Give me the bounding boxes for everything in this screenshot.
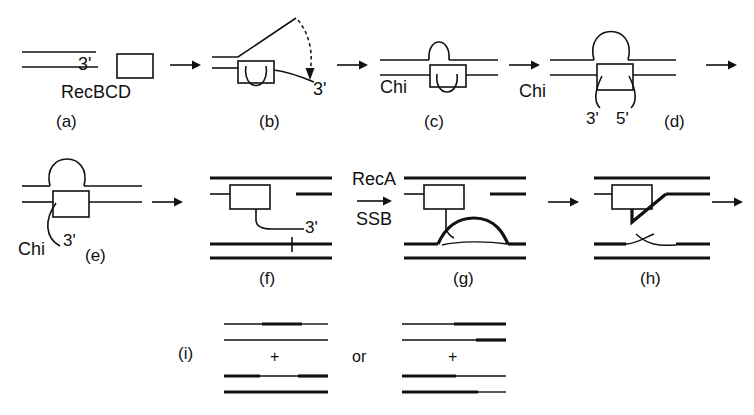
label-chi-e: Chi xyxy=(18,240,45,258)
label-plus-right: + xyxy=(448,349,457,365)
panel-g-graphic xyxy=(402,172,542,260)
arrow-b-to-c xyxy=(337,58,369,72)
arrow-a-to-b xyxy=(170,58,202,72)
caption-a: (a) xyxy=(56,113,77,130)
label-3prime-b: 3' xyxy=(313,80,326,98)
recbcd-enzyme-box xyxy=(597,64,633,90)
recbcd-enzyme-box xyxy=(238,61,274,83)
arrow-g-to-h xyxy=(548,195,580,209)
reca-protein-box xyxy=(612,185,652,209)
label-chi-d: Chi xyxy=(519,82,546,100)
arrow-c-to-d xyxy=(509,58,541,72)
arrow-e-to-f xyxy=(152,195,184,209)
degradation-dashed-arrow xyxy=(298,20,311,72)
ssdna-large-loop-above xyxy=(593,32,629,61)
figure-canvas: 3' RecBCD (a) 3' (b) Chi (c) xyxy=(0,0,754,415)
panel-f-graphic xyxy=(208,172,348,260)
label-recbcd: RecBCD xyxy=(61,83,131,101)
caption-e: (e) xyxy=(85,247,106,264)
ssdna-loop-above xyxy=(429,42,449,60)
caption-g: (g) xyxy=(453,270,474,287)
reca-protein-box xyxy=(230,185,270,209)
ssdna-large-loop-above xyxy=(49,159,85,186)
recbcd-enzyme-box xyxy=(430,65,466,87)
label-plus-left: + xyxy=(270,349,279,365)
caption-b: (b) xyxy=(259,113,280,130)
invading-3prime-tail xyxy=(256,209,304,229)
label-ssb: SSB xyxy=(356,210,392,228)
recbcd-enzyme-box xyxy=(53,191,89,217)
dloop-arc xyxy=(438,218,508,244)
arrow-f-to-g xyxy=(357,194,393,208)
arrow-d-to-e xyxy=(706,58,738,72)
panel-d-graphic xyxy=(548,16,683,111)
panel-h-graphic xyxy=(592,172,722,260)
label-3prime-e: 3' xyxy=(63,232,76,249)
displaced-strand-under-dloop xyxy=(442,242,508,245)
arrow-h-to-i xyxy=(712,195,744,209)
dna-strand-upper-unwound xyxy=(212,18,296,57)
label-3prime-f: 3' xyxy=(305,219,318,236)
label-3prime-a: 3' xyxy=(78,55,91,73)
caption-f: (f) xyxy=(259,270,275,287)
caption-h: (h) xyxy=(640,270,661,287)
label-or: or xyxy=(352,349,366,365)
label-5prime-d: 5' xyxy=(616,110,629,127)
caption-d: (d) xyxy=(664,113,685,130)
recbcd-enzyme-box xyxy=(117,54,153,78)
reca-protein-box xyxy=(424,185,464,209)
label-3prime-d: 3' xyxy=(586,110,599,127)
label-reca: RecA xyxy=(352,170,396,188)
caption-c: (c) xyxy=(424,113,444,130)
label-chi-c: Chi xyxy=(380,78,407,96)
caption-i: (i) xyxy=(178,345,193,362)
